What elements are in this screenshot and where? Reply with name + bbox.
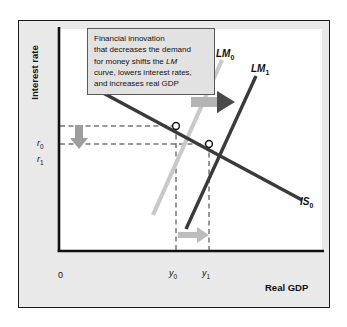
tick-y0-sub: 0 bbox=[174, 273, 178, 280]
tick-y1-sub: 1 bbox=[207, 273, 211, 280]
figure-panel: Interest rate Real GDP 0 r0 r1 y0 y1 LM0… bbox=[18, 20, 330, 308]
curve-label-lm0: LM0 bbox=[216, 48, 234, 61]
callout-line-3-text: for money shifts the bbox=[94, 57, 166, 66]
tick-r0-sub: 0 bbox=[40, 143, 44, 150]
callout-line-2: that decreases the demand bbox=[94, 44, 209, 55]
lm0-label-sub: 0 bbox=[230, 54, 234, 61]
curve-label-lm1: LM1 bbox=[251, 63, 269, 76]
callout-line-5: and increases real GDP bbox=[94, 78, 209, 89]
callout-line-1: Financial innovation bbox=[94, 33, 209, 44]
figure-container: Interest rate Real GDP 0 r0 r1 y0 y1 LM0… bbox=[0, 0, 347, 327]
lm1-label-base: LM bbox=[251, 63, 265, 74]
equilibrium-point-0 bbox=[173, 123, 180, 130]
tick-r1-sub: 1 bbox=[40, 159, 44, 166]
callout-line-3-emphasis: LM bbox=[166, 57, 177, 66]
equilibrium-point-1 bbox=[206, 141, 213, 148]
tick-label-y1: y1 bbox=[202, 268, 210, 280]
origin-label: 0 bbox=[58, 270, 63, 280]
tick-label-r0: r0 bbox=[37, 138, 44, 150]
x-axis-title: Real GDP bbox=[265, 282, 308, 293]
tick-label-r1: r1 bbox=[37, 154, 44, 166]
lm0-label-base: LM bbox=[216, 48, 230, 59]
callout-line-4: curve, lowers interest rates, bbox=[94, 67, 209, 78]
y-axis-title: Interest rate bbox=[29, 38, 40, 108]
tick-label-y0: y0 bbox=[169, 268, 177, 280]
lm1-label-sub: 1 bbox=[265, 69, 269, 76]
curve-label-is0: IS0 bbox=[300, 196, 313, 209]
is0-label-sub: 0 bbox=[309, 202, 313, 209]
callout-box: Financial innovation that decreases the … bbox=[87, 28, 215, 95]
callout-line-3: for money shifts the LM bbox=[94, 56, 209, 67]
